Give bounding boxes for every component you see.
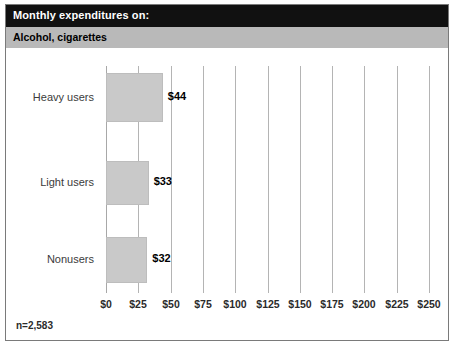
x-tick-label: $75 xyxy=(194,298,212,310)
bar-value-label: $33 xyxy=(154,175,172,187)
x-tick-label: $225 xyxy=(385,298,408,310)
bar xyxy=(106,237,147,283)
x-tick-label: $150 xyxy=(288,298,311,310)
bar xyxy=(106,73,163,122)
x-tick-label: $0 xyxy=(100,298,112,310)
category-label: Nonusers xyxy=(16,253,94,265)
bar xyxy=(106,161,149,205)
x-tick-label: $175 xyxy=(320,298,343,310)
x-tick-label: $125 xyxy=(256,298,279,310)
x-tick-label: $100 xyxy=(223,298,246,310)
chart-subtitle: Alcohol, cigarettes xyxy=(13,31,107,43)
bar-value-label: $32 xyxy=(152,252,170,264)
bar-value-label: $44 xyxy=(168,90,186,102)
x-tick-label: $200 xyxy=(352,298,375,310)
x-tick-label: $250 xyxy=(417,298,440,310)
chart-subtitle-bar: Alcohol, cigarettes xyxy=(6,27,448,48)
sample-size-note: n=2,583 xyxy=(16,320,53,331)
plot-area: $44Heavy users$33Light users$32Nonusers … xyxy=(6,48,448,342)
page-title: Monthly expenditures on: xyxy=(13,9,149,21)
category-label: Heavy users xyxy=(16,91,94,103)
category-label: Light users xyxy=(16,176,94,188)
chart-title-bar: Monthly expenditures on: xyxy=(6,5,448,27)
x-tick-label: $50 xyxy=(162,298,180,310)
x-tick-label: $25 xyxy=(129,298,147,310)
chart-figure: Monthly expenditures on: Alcohol, cigare… xyxy=(5,4,449,341)
